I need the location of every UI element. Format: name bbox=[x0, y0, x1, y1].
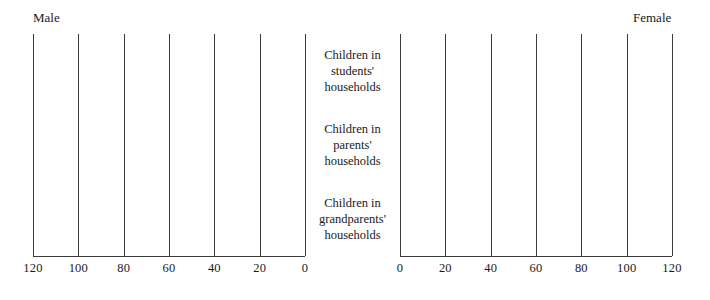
female-axis-line bbox=[400, 256, 672, 257]
population-pyramid-chart: Male Female Children in students' househ… bbox=[0, 0, 710, 300]
category-label-1: Children in parents' households bbox=[324, 121, 381, 169]
female-panel-header: Female bbox=[633, 10, 671, 25]
gridline-male-120 bbox=[33, 34, 34, 256]
gridline-female-20 bbox=[445, 34, 446, 256]
tick-label-male-80: 80 bbox=[117, 261, 130, 275]
tick-label-female-40: 40 bbox=[484, 261, 497, 275]
gridline-female-0 bbox=[400, 34, 401, 256]
tick-label-male-0: 0 bbox=[302, 261, 308, 275]
category-label-0: Children in students' households bbox=[324, 47, 381, 95]
gridline-female-80 bbox=[581, 34, 582, 256]
tick-label-female-80: 80 bbox=[575, 261, 588, 275]
female-panel bbox=[400, 34, 672, 256]
tick-label-female-60: 60 bbox=[530, 261, 543, 275]
male-panel bbox=[33, 34, 305, 256]
male-axis-line bbox=[33, 256, 305, 257]
female-plot-area bbox=[400, 34, 672, 256]
category-label-2: Children in grandparents' households bbox=[319, 195, 386, 243]
gridline-female-120 bbox=[672, 34, 673, 256]
tick-label-male-120: 120 bbox=[23, 261, 42, 275]
gridline-male-60 bbox=[169, 34, 170, 256]
male-panel-header: Male bbox=[33, 10, 60, 25]
gridline-female-100 bbox=[627, 34, 628, 256]
gridline-male-100 bbox=[78, 34, 79, 256]
tick-label-female-120: 120 bbox=[662, 261, 681, 275]
gridline-male-80 bbox=[124, 34, 125, 256]
gridline-female-60 bbox=[536, 34, 537, 256]
tick-label-male-40: 40 bbox=[208, 261, 221, 275]
tick-label-male-20: 20 bbox=[253, 261, 266, 275]
category-label-column: Children in students' householdsChildren… bbox=[305, 34, 400, 256]
tick-label-female-100: 100 bbox=[617, 261, 636, 275]
tick-label-female-0: 0 bbox=[397, 261, 403, 275]
tick-label-female-20: 20 bbox=[439, 261, 452, 275]
tick-label-male-100: 100 bbox=[69, 261, 88, 275]
tick-label-male-60: 60 bbox=[163, 261, 176, 275]
gridline-female-40 bbox=[491, 34, 492, 256]
gridline-male-40 bbox=[214, 34, 215, 256]
gridline-male-20 bbox=[260, 34, 261, 256]
male-plot-area bbox=[33, 34, 305, 256]
